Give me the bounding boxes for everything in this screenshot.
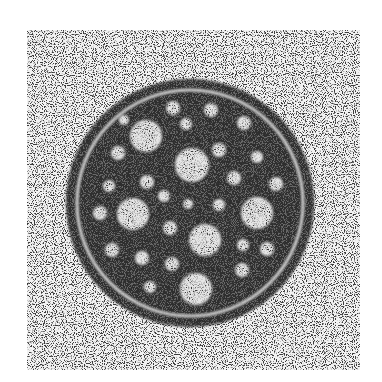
inclusion-grain-dot [103, 180, 115, 192]
inclusion-grain-dot [237, 116, 251, 130]
inclusion-grain-dot [251, 151, 263, 163]
inclusion-grain-dot [117, 198, 149, 230]
inclusion-grain-dot [204, 103, 218, 117]
inclusion-grain-dot [183, 199, 193, 209]
inclusion-grain-dot [189, 224, 221, 256]
inclusion-grain-dot [175, 148, 209, 182]
inclusion-grain-dot [212, 143, 226, 157]
micrograph-image [0, 0, 382, 382]
inclusion-grain-dot [237, 239, 249, 251]
inclusion-grain-dot [144, 281, 156, 293]
inclusion-grain-dot [269, 177, 283, 191]
inclusion-grain-dot [130, 120, 162, 152]
inclusion-grain-dot [241, 197, 273, 229]
inclusion-grain-dot [140, 175, 154, 189]
inclusion-grain-dot [158, 190, 170, 202]
inclusion-grain-dot [166, 101, 180, 115]
micrograph-stage [0, 0, 382, 382]
inclusion-grain-dot [213, 199, 225, 211]
inclusion-grain-dot [135, 251, 149, 265]
inclusion-grain-dot [235, 263, 249, 277]
inclusion-grain-dot [260, 242, 274, 256]
inclusion-grain-dot [227, 171, 241, 185]
inclusion-grain-dot [180, 273, 212, 305]
inclusion-grain-dot [93, 206, 107, 220]
micrograph-field [27, 30, 360, 370]
cell-body [66, 79, 314, 327]
inclusion-grain-dot [105, 243, 119, 257]
inclusion-grain-dot [119, 115, 129, 125]
inclusion-grain-dot [165, 257, 179, 271]
inclusion-grain-dot [180, 118, 192, 130]
inclusion-grain-dot [111, 146, 125, 160]
inclusion-grain-dot [163, 221, 177, 235]
